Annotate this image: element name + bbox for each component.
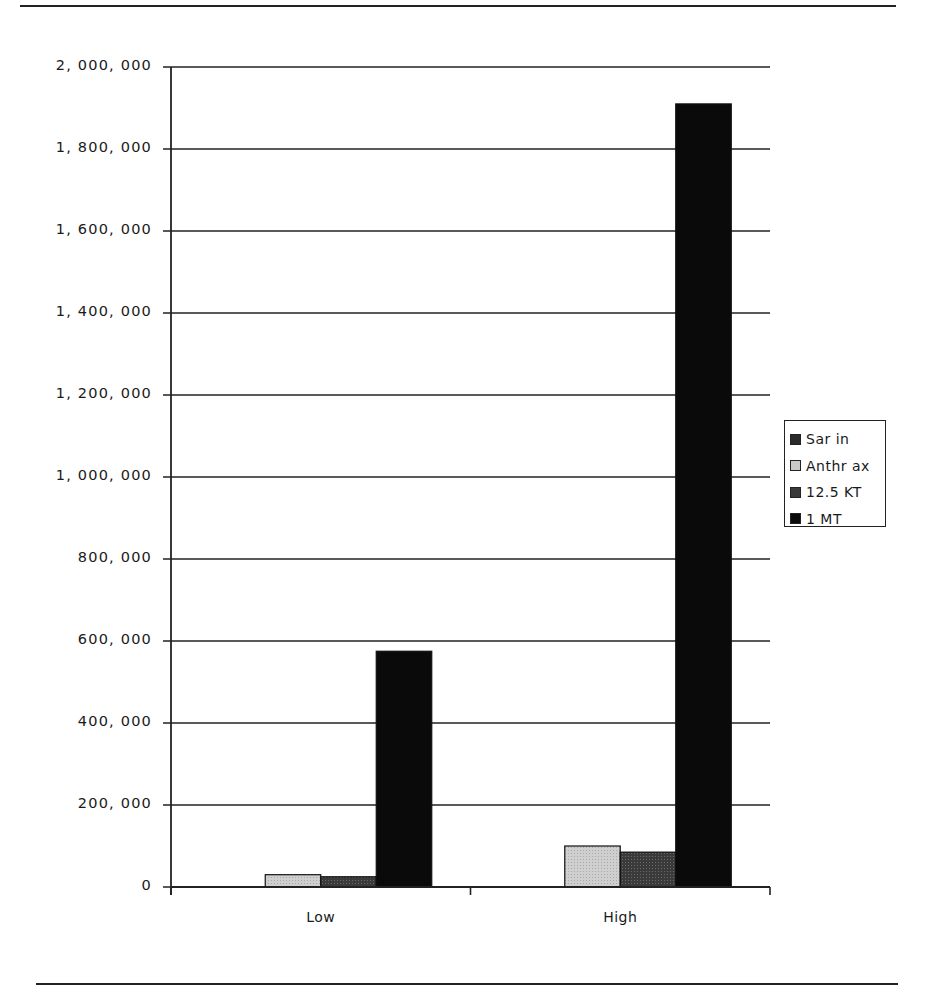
y-tick-label: 0 — [2, 877, 152, 893]
legend-swatch-12-5kt — [790, 487, 801, 498]
bar-12-5-kt-high — [620, 852, 676, 887]
legend-swatch-sarin — [790, 434, 801, 445]
legend-label: 1 MT — [806, 511, 842, 527]
bar-anthrax-high — [565, 846, 621, 887]
bar-anthrax-low — [265, 875, 321, 887]
y-tick-label: 2, 000, 000 — [2, 57, 152, 73]
y-tick-label: 1, 200, 000 — [2, 385, 152, 401]
bar-1-mt-high — [676, 104, 732, 887]
bar-1-mt-low — [376, 651, 432, 887]
y-tick-label: 1, 400, 000 — [2, 303, 152, 319]
y-tick-label: 600, 000 — [2, 631, 152, 647]
y-tick-label: 1, 000, 000 — [2, 467, 152, 483]
legend-item-1mt: 1 MT — [790, 506, 885, 533]
y-tick-label: 200, 000 — [2, 795, 152, 811]
y-tick-label: 1, 800, 000 — [2, 139, 152, 155]
legend-item-sarin: Sar in — [790, 426, 885, 453]
y-tick-label: 400, 000 — [2, 713, 152, 729]
legend-label: 12.5 KT — [806, 484, 862, 500]
y-tick-label: 800, 000 — [2, 549, 152, 565]
legend-item-anthrax: Anthr ax — [790, 453, 885, 480]
legend-item-12-5kt: 12.5 KT — [790, 479, 885, 506]
x-category-label: Low — [271, 909, 371, 925]
x-category-label: High — [570, 909, 670, 925]
y-tick-label: 1, 600, 000 — [2, 221, 152, 237]
chart-legend: Sar in Anthr ax 12.5 KT 1 MT — [784, 420, 886, 527]
legend-swatch-anthrax — [790, 460, 801, 471]
legend-swatch-1mt — [790, 513, 801, 524]
bar-12-5-kt-low — [321, 877, 377, 887]
legend-label: Anthr ax — [806, 458, 870, 474]
legend-label: Sar in — [806, 431, 849, 447]
